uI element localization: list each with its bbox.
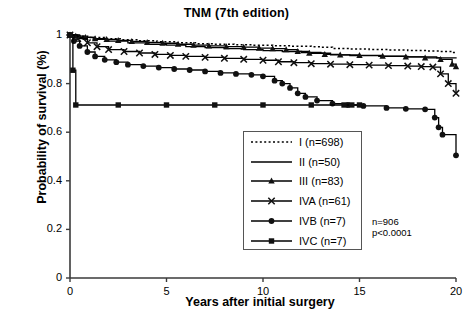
marker-square [70,68,75,73]
marker-square [349,102,354,107]
marker-circle [440,132,446,138]
x-tick-label: 5 [152,285,182,297]
legend-swatch-ivc [249,234,294,248]
y-tick-label: 0.2 [28,222,62,234]
marker-circle [436,124,442,130]
x-tick-label: 10 [248,285,278,297]
marker-circle [171,66,177,72]
marker-circle [295,90,301,96]
marker-circle [187,67,193,73]
marker-circle [202,69,208,75]
survival-chart-figure: TNM (7th edition) Probability of surviva… [0,0,473,322]
marker-circle [260,73,266,79]
series-line [70,35,456,59]
y-tick-label: 1 [28,28,62,40]
legend-item-iii[interactable]: III (n=83) [244,172,361,192]
legend-label-ivc: IVC (n=7) [299,235,346,247]
marker-square [260,102,265,107]
legend-swatch-ivb [249,214,294,228]
x-tick-label: 0 [55,285,85,297]
marker-circle [125,62,131,68]
stats-annotation: n=906 p<0.0001 [372,216,412,238]
marker-circle [71,38,77,44]
marker-circle [233,71,239,77]
marker-circle [279,81,285,87]
marker-circle [303,94,309,100]
legend[interactable]: I (n=698)II (n=50)III (n=83)IVA (n=61)IV… [243,131,362,250]
marker-circle [432,115,438,121]
legend-label-iii: III (n=83) [299,175,343,187]
marker-square [73,102,78,107]
legend-item-ii[interactable]: II (n=50) [244,152,361,172]
marker-circle [92,53,98,59]
y-tick-label: 0 [28,271,62,283]
legend-label-iva: IVA (n=61) [299,195,350,207]
series-ii [70,35,456,59]
legend-swatch-ii [249,155,294,169]
marker-circle [422,106,428,112]
marker-circle [84,49,90,55]
marker-square [341,102,346,107]
marker-circle [156,65,162,71]
marker-circle [272,78,278,84]
legend-item-ivb[interactable]: IVB (n=7) [244,211,361,231]
legend-item-i[interactable]: I (n=698) [244,132,361,152]
marker-square [269,238,274,243]
marker-circle [314,98,320,104]
x-tick-label: 20 [441,285,471,297]
total-n-label: n=906 [372,216,412,227]
marker-circle [453,152,459,158]
legend-swatch-i [249,135,294,149]
marker-square [309,102,314,107]
marker-square [116,102,121,107]
marker-circle [249,72,255,78]
legend-label-i: I (n=698) [299,136,343,148]
legend-item-iva[interactable]: IVA (n=61) [244,191,361,211]
marker-circle [403,106,409,112]
plot-area [0,0,473,322]
marker-square [164,102,169,107]
marker-circle [218,70,224,76]
y-tick-label: 0.8 [28,77,62,89]
marker-square [212,102,217,107]
marker-circle [269,218,275,224]
legend-label-ivb: IVB (n=7) [299,215,346,227]
series-ivc [67,32,362,107]
x-tick-label: 15 [345,285,375,297]
y-tick-label: 0.6 [28,125,62,137]
marker-circle [102,57,108,63]
marker-square [67,32,72,37]
legend-swatch-iii [249,174,294,188]
marker-circle [140,63,146,69]
marker-circle [287,85,293,91]
marker-circle [113,59,119,65]
p-value-label: p<0.0001 [372,227,412,238]
legend-item-ivc[interactable]: IVC (n=7) [244,231,361,251]
marker-square [357,102,362,107]
marker-circle [384,105,390,111]
legend-swatch-iva [249,194,294,208]
y-tick-label: 0.4 [28,174,62,186]
legend-label-ii: II (n=50) [299,156,340,168]
marker-circle [77,43,83,49]
